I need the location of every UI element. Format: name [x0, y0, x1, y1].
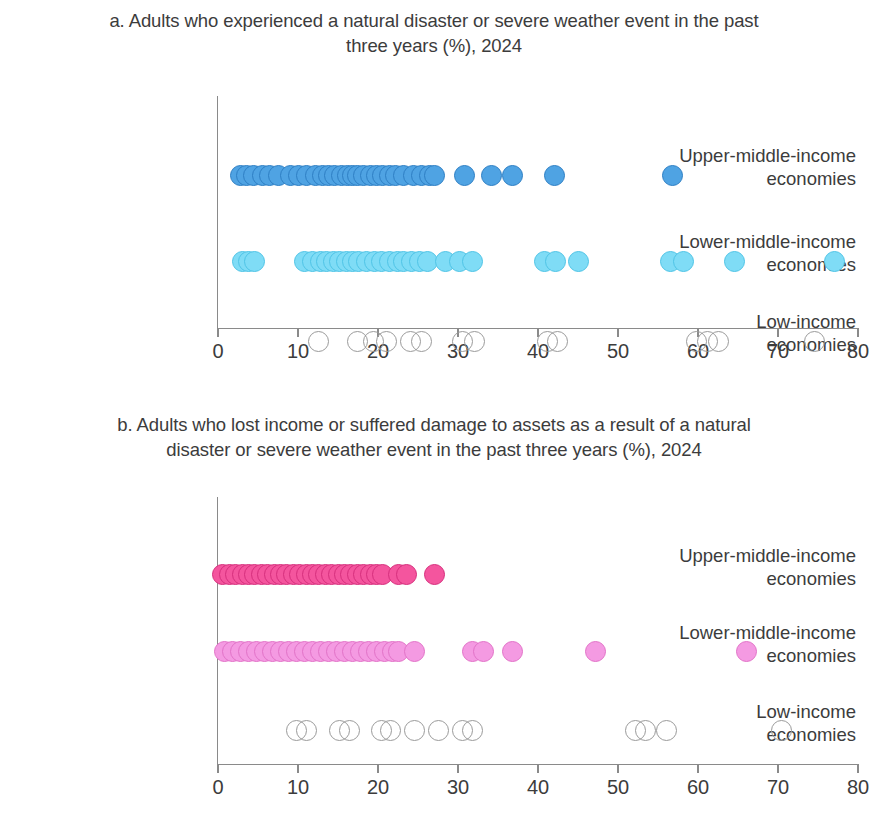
x-tick-20	[377, 765, 378, 773]
data-point	[568, 251, 589, 272]
x-tick-label-0: 0	[198, 776, 238, 799]
data-point	[673, 251, 694, 272]
data-point	[464, 331, 485, 352]
data-point	[404, 641, 425, 662]
panel-a-title: a. Adults who experienced a natural disa…	[0, 8, 868, 58]
data-point	[244, 251, 265, 272]
x-tick-label-20: 20	[358, 776, 398, 799]
data-point	[462, 251, 483, 272]
y-axis-line	[217, 96, 218, 328]
data-point	[662, 165, 683, 186]
x-tick-label-50: 50	[598, 776, 638, 799]
x-tick-label-70: 70	[758, 776, 798, 799]
data-point	[502, 165, 523, 186]
x-tick-0	[217, 765, 218, 773]
panel-b-plot: 01020304050607080Upper-middle-income eco…	[0, 462, 868, 792]
panel-a-plot: 01020304050607080Upper-middle-income eco…	[0, 58, 868, 358]
y-category-label-0: Upper-middle-income economies	[671, 544, 868, 590]
x-tick-label-60: 60	[678, 776, 718, 799]
x-tick-label-40: 40	[518, 776, 558, 799]
data-point	[339, 720, 360, 741]
data-point	[424, 165, 445, 186]
x-tick-label-10: 10	[278, 776, 318, 799]
x-tick-label-0: 0	[198, 340, 238, 363]
data-point	[396, 564, 417, 585]
data-point	[656, 720, 677, 741]
data-point	[481, 165, 502, 186]
x-tick-70	[777, 765, 778, 773]
y-category-label-0: Upper-middle-income economies	[671, 144, 868, 190]
data-point	[308, 331, 329, 352]
data-point	[708, 331, 729, 352]
panel-a: a. Adults who experienced a natural disa…	[0, 8, 868, 358]
y-axis-line	[217, 497, 218, 764]
data-point	[545, 251, 566, 272]
data-point	[824, 251, 845, 272]
x-tick-label-50: 50	[598, 340, 638, 363]
x-tick-0	[217, 329, 218, 337]
data-point	[585, 641, 606, 662]
data-point	[380, 720, 401, 741]
panel-b: b. Adults who lost income or suffered da…	[0, 412, 868, 792]
data-point	[804, 331, 825, 352]
x-tick-40	[537, 765, 538, 773]
data-point	[724, 251, 745, 272]
data-point	[428, 720, 449, 741]
x-tick-10	[297, 329, 298, 337]
y-category-label-2: Low-income economies	[671, 700, 868, 746]
x-tick-label-80: 80	[838, 776, 873, 799]
data-point	[635, 720, 656, 741]
data-point	[547, 331, 568, 352]
x-tick-10	[297, 765, 298, 773]
data-point	[771, 720, 792, 741]
data-point	[411, 331, 432, 352]
data-point	[404, 720, 425, 741]
y-category-label-1: Lower-middle-income economies	[671, 621, 868, 667]
data-point	[376, 331, 397, 352]
x-tick-50	[617, 765, 618, 773]
data-point	[473, 641, 494, 662]
data-point	[462, 720, 483, 741]
data-point	[424, 564, 445, 585]
data-point	[454, 165, 475, 186]
data-point	[296, 720, 317, 741]
data-point	[502, 641, 523, 662]
x-tick-50	[617, 329, 618, 337]
panel-b-title: b. Adults who lost income or suffered da…	[0, 412, 868, 462]
data-point	[544, 165, 565, 186]
x-tick-label-30: 30	[438, 776, 478, 799]
x-tick-60	[697, 765, 698, 773]
data-point	[736, 641, 757, 662]
x-tick-30	[457, 765, 458, 773]
x-tick-80	[857, 765, 858, 773]
